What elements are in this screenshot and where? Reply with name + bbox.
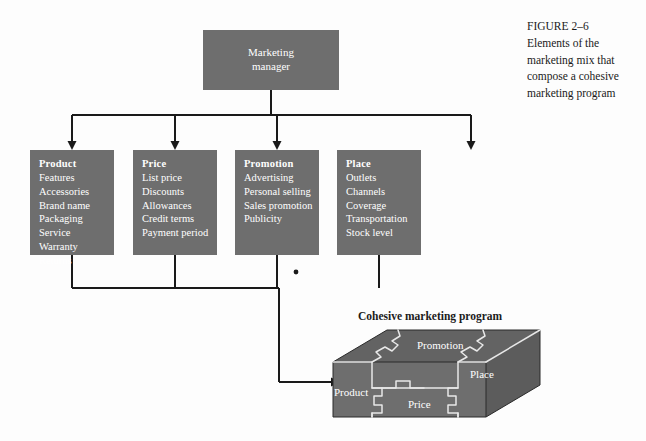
node-product-item: Packaging xyxy=(39,212,114,226)
figure-number: FIGURE 2–6 xyxy=(527,18,642,35)
figure-caption-line: marketing mix that xyxy=(527,52,642,69)
node-promotion-item: Sales promotion xyxy=(244,199,319,213)
node-price-item: Payment period xyxy=(142,226,217,240)
node-price[interactable]: Price List price Discounts Allowances Cr… xyxy=(133,150,217,255)
cube-face-label-product: Product xyxy=(334,386,368,398)
node-product[interactable]: Product Features Accessories Brand name … xyxy=(30,150,114,255)
node-marketing-manager[interactable]: Marketing manager xyxy=(203,30,339,90)
seam-front-left xyxy=(372,388,382,417)
node-product-heading: Product xyxy=(39,157,114,171)
figure-canvas: Marketing manager Product Features Acces… xyxy=(0,0,646,441)
seam-top-left xyxy=(372,330,400,362)
node-place-item: Coverage xyxy=(346,199,421,213)
arrowhead-place xyxy=(467,141,476,150)
node-promotion[interactable]: Promotion Advertising Personal selling S… xyxy=(235,150,319,255)
node-promotion-heading: Promotion xyxy=(244,157,319,171)
arrowhead-product xyxy=(68,141,77,150)
cube-face-label-promotion: Promotion xyxy=(417,339,463,351)
seam-front-center xyxy=(382,381,424,388)
seam-front-right xyxy=(448,388,458,417)
arrowhead-promotion xyxy=(273,141,282,150)
root-label-line2: manager xyxy=(252,60,290,74)
node-promotion-item: Publicity xyxy=(244,212,319,226)
node-product-item: Warranty xyxy=(39,240,114,254)
node-place-item: Stock level xyxy=(346,226,421,240)
figure-caption-line: compose a cohesive xyxy=(527,68,642,85)
root-label-line1: Marketing xyxy=(248,46,294,60)
node-product-item: Brand name xyxy=(39,199,114,213)
node-price-item: Discounts xyxy=(142,185,217,199)
node-price-item: List price xyxy=(142,171,217,185)
figure-caption-line: marketing program xyxy=(527,85,642,102)
node-promotion-item: Advertising xyxy=(244,171,319,185)
node-place-item: Channels xyxy=(346,185,421,199)
cube-face-label-price: Price xyxy=(408,398,431,410)
seam-front-top xyxy=(333,362,486,388)
node-price-item: Credit terms xyxy=(142,212,217,226)
puzzle-seams-right xyxy=(486,330,540,362)
node-price-heading: Price xyxy=(142,157,217,171)
node-promotion-item: Personal selling xyxy=(244,185,319,199)
node-place-heading: Place xyxy=(346,157,421,171)
node-product-item: Accessories xyxy=(39,185,114,199)
figure-caption: FIGURE 2–6 Elements of the marketing mix… xyxy=(527,18,642,102)
dot-marker xyxy=(294,270,299,275)
cube-title: Cohesive marketing program xyxy=(358,310,502,322)
node-place-item: Transportation xyxy=(346,212,421,226)
seam-right-face xyxy=(486,330,540,362)
node-product-item: Service xyxy=(39,226,114,240)
figure-caption-line: Elements of the xyxy=(527,35,642,52)
cube-right-face xyxy=(486,330,540,417)
node-product-item: Returns xyxy=(39,254,114,268)
arrowhead-price xyxy=(171,141,180,150)
node-price-item: Allowances xyxy=(142,199,217,213)
node-place-item: Outlets xyxy=(346,171,421,185)
node-product-item: Features xyxy=(39,171,114,185)
node-place[interactable]: Place Outlets Channels Coverage Transpor… xyxy=(337,150,421,255)
cube-face-label-place: Place xyxy=(470,368,494,380)
